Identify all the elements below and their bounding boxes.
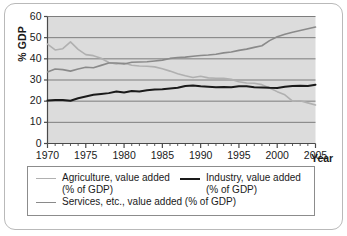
x-tick-label: 2000 <box>260 149 294 161</box>
y-tick-label: 10 <box>20 115 42 127</box>
y-tick-label: 60 <box>20 10 42 22</box>
y-tick-label: 50 <box>20 31 42 43</box>
x-tick-label: 1975 <box>69 149 103 161</box>
y-tick-label: 20 <box>20 94 42 106</box>
legend-entry: Industry, value added (% of GDP) <box>180 172 301 195</box>
x-tick-label: 1995 <box>222 149 256 161</box>
legend-swatch-line-icon <box>36 178 56 179</box>
legend-label: Services, etc., value added (% of GDP) <box>62 196 236 208</box>
legend-swatch-line-icon <box>180 178 200 180</box>
y-tick-label: 0 <box>20 137 42 149</box>
x-tick-label: 1970 <box>31 149 65 161</box>
legend-entry: Services, etc., value added (% of GDP) <box>36 196 236 208</box>
chart-legend: Agriculture, value added (% of GDP)Indus… <box>27 166 315 216</box>
legend-entry: Agriculture, value added (% of GDP) <box>36 172 170 195</box>
y-tick-label: 40 <box>20 52 42 64</box>
legend-label: Industry, value added (% of GDP) <box>206 172 301 195</box>
x-tick-label: 1990 <box>184 149 218 161</box>
legend-swatch-line-icon <box>36 202 56 203</box>
x-tick-label: 1980 <box>107 149 141 161</box>
x-tick-label: 2005 <box>299 149 333 161</box>
x-tick-label: 1985 <box>145 149 179 161</box>
y-tick-label: 30 <box>20 73 42 85</box>
legend-label: Agriculture, value added (% of GDP) <box>62 172 170 195</box>
chart-figure: % GDP Year 0102030405060 197019751980198… <box>0 0 347 236</box>
